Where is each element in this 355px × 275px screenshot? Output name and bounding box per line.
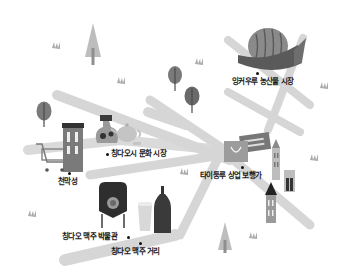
location-label-culture-market[interactable]: 칭다오시 문화 시장 — [111, 150, 166, 158]
brewing-tank-icon — [99, 182, 127, 228]
tree-round-mid2 — [185, 87, 200, 114]
marker-dot-tianmu — [68, 172, 71, 175]
marker-dot-culture-market — [106, 153, 109, 156]
location-label-taidong[interactable]: 타이둥루 상업 보행가 — [200, 172, 262, 180]
marker-dot-beer-street — [139, 242, 142, 245]
tree-round-left — [37, 102, 52, 128]
map-illustration — [0, 0, 355, 275]
beer-bottle-icon — [138, 186, 171, 233]
tree-round-mid1 — [168, 66, 182, 91]
location-label-tianmu[interactable]: 천막성 — [58, 178, 77, 186]
marker-dot-market — [256, 72, 259, 75]
location-label-beer-museum[interactable]: 칭다오 맥주 박물관 — [62, 233, 117, 241]
tree-pine-top — [85, 23, 101, 65]
tourist-map: 잉커우루 농산물 시장 칭다오시 문화 시장 천막성 타이둥루 상업 보행가 칭… — [0, 0, 355, 275]
marker-dot-taidong — [241, 166, 244, 169]
watermelon-icon — [238, 28, 306, 70]
location-label-beer-street[interactable]: 칭다오 맥주 거리 — [111, 248, 160, 256]
location-label-market[interactable]: 잉커우루 농산물 시장 — [232, 78, 294, 86]
road-x-cross — [228, 92, 300, 132]
tree-pine-bottom — [218, 222, 232, 253]
shopping-bag-icon — [224, 132, 271, 162]
marker-dot-beer-museum — [127, 236, 130, 239]
